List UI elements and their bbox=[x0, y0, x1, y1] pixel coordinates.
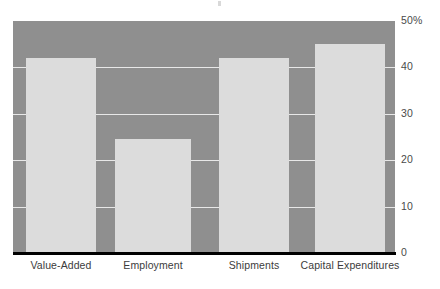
x-axis-baseline bbox=[13, 252, 396, 255]
plot-area bbox=[13, 21, 395, 253]
bar-4 bbox=[315, 44, 385, 253]
y-tick-label-40: 40 bbox=[401, 61, 439, 72]
bar-1 bbox=[26, 58, 96, 253]
y-tick-label-20: 20 bbox=[401, 154, 439, 165]
top-edge-artifact bbox=[218, 1, 221, 6]
bar-chart: 01020304050% Value-AddedEmploymentShipme… bbox=[0, 0, 440, 289]
y-tick-label-50: 50% bbox=[401, 15, 439, 26]
bar-2 bbox=[115, 139, 191, 253]
bar-3 bbox=[219, 58, 289, 253]
x-category-label-4: Capital Expenditures bbox=[280, 259, 420, 271]
y-tick-label-10: 10 bbox=[401, 201, 439, 212]
y-tick-label-30: 30 bbox=[401, 108, 439, 119]
y-tick-label-0: 0 bbox=[401, 247, 439, 258]
